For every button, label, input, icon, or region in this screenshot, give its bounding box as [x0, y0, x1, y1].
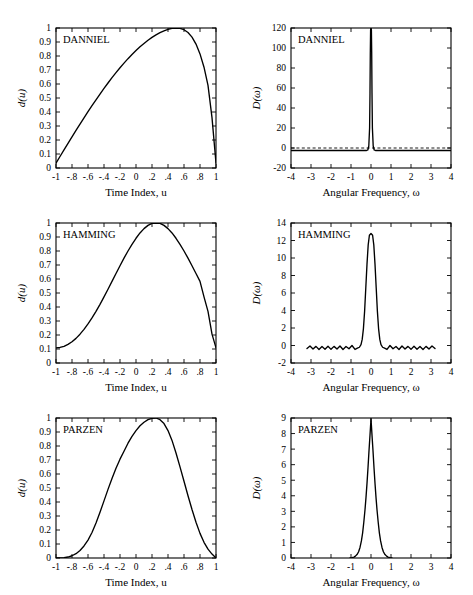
- plot-parzen-window: -1-.8-.6-.4-.20.2.4.6.8100.10.20.30.40.5…: [10, 406, 228, 594]
- y-tick-label: 10: [277, 253, 287, 263]
- x-tick-label: -1: [52, 562, 60, 572]
- x-tick-label: 0: [134, 562, 139, 572]
- y-tick-label: 0.5: [39, 483, 51, 493]
- x-tick-label: 0: [134, 172, 139, 182]
- panel-danniel-window: -1-.8-.6-.4-.20.2.4.6.8100.10.20.30.40.5…: [10, 16, 228, 204]
- x-tick-label: .8: [196, 172, 203, 182]
- x-tick-label: .2: [148, 367, 155, 377]
- y-tick-label: 0.8: [39, 246, 51, 256]
- x-axis-title: Angular Frequency, ω: [322, 186, 419, 198]
- y-tick-label: 80: [277, 63, 287, 73]
- x-tick-label: -.6: [83, 562, 94, 572]
- x-tick-label: -.4: [99, 172, 110, 182]
- y-tick-label: 12: [277, 236, 287, 246]
- panel-title: PARZEN: [298, 424, 338, 435]
- x-tick-label: 4: [449, 562, 454, 572]
- y-tick-label: 8: [281, 429, 286, 439]
- y-tick-label: 1: [281, 538, 286, 548]
- y-tick-label: 0.3: [39, 121, 51, 131]
- y-axis-title: d(u): [15, 284, 28, 303]
- y-tick-label: 0.6: [39, 79, 51, 89]
- x-tick-label: 3: [429, 172, 434, 182]
- x-tick-label: -.6: [83, 367, 94, 377]
- y-tick-label: 5: [281, 476, 286, 486]
- y-tick-label: 0.8: [39, 51, 51, 61]
- plot-frame: [291, 223, 451, 363]
- y-tick-label: 0.5: [39, 288, 51, 298]
- x-tick-label: -.2: [115, 172, 126, 182]
- x-tick-label: 2: [409, 562, 414, 572]
- panel-parzen-window: -1-.8-.6-.4-.20.2.4.6.8100.10.20.30.40.5…: [10, 406, 228, 594]
- x-tick-label: .4: [164, 367, 171, 377]
- y-tick-label: 0: [281, 143, 286, 153]
- panel-title: HAMMING: [298, 229, 351, 240]
- data-curve: [291, 28, 451, 151]
- x-tick-label: -1: [52, 172, 60, 182]
- y-tick-label: 0.6: [39, 274, 51, 284]
- plot-frame: [56, 418, 216, 558]
- x-tick-label: 0: [369, 172, 374, 182]
- y-tick-label: 0.1: [39, 539, 51, 549]
- y-tick-label: 0.4: [39, 497, 51, 507]
- x-tick-label: .8: [196, 367, 203, 377]
- data-curve: [350, 419, 392, 558]
- y-tick-label: 0.7: [39, 260, 51, 270]
- x-tick-label: 1: [214, 562, 219, 572]
- y-tick-label: 0: [46, 553, 51, 563]
- y-tick-label: -20: [273, 163, 286, 173]
- x-tick-label: -.2: [115, 367, 126, 377]
- y-axis-title: D(ω): [250, 281, 263, 305]
- y-tick-label: 0.1: [39, 149, 51, 159]
- x-tick-label: -2: [327, 562, 335, 572]
- x-axis-title: Time Index, u: [105, 576, 167, 588]
- x-tick-label: 4: [449, 367, 454, 377]
- y-tick-label: 120: [272, 23, 287, 33]
- y-tick-label: 100: [272, 43, 287, 53]
- y-tick-label: 0.1: [39, 344, 51, 354]
- x-tick-label: -4: [287, 367, 295, 377]
- x-tick-label: -.8: [67, 562, 78, 572]
- y-tick-label: 0: [46, 163, 51, 173]
- x-tick-label: 1: [389, 562, 394, 572]
- x-axis-title: Time Index, u: [105, 186, 167, 198]
- data-curve: [56, 28, 216, 163]
- panel-title: DANNIEL: [63, 34, 110, 45]
- x-tick-label: -.4: [99, 562, 110, 572]
- panel-title: HAMMING: [63, 229, 116, 240]
- y-axis-title: d(u): [15, 479, 28, 498]
- x-tick-label: 0: [369, 562, 374, 572]
- y-tick-label: 0.3: [39, 511, 51, 521]
- x-tick-label: .8: [196, 562, 203, 572]
- y-tick-label: 1: [46, 23, 51, 33]
- panel-title: PARZEN: [63, 424, 103, 435]
- figure-canvas: -1-.8-.6-.4-.20.2.4.6.8100.10.20.30.40.5…: [0, 0, 473, 595]
- x-tick-label: 2: [409, 172, 414, 182]
- x-tick-label: 1: [214, 172, 219, 182]
- x-tick-label: .4: [164, 172, 171, 182]
- y-tick-label: 0.3: [39, 316, 51, 326]
- y-tick-label: -2: [278, 358, 286, 368]
- y-tick-label: 0.8: [39, 441, 51, 451]
- y-tick-label: 2: [281, 323, 286, 333]
- x-tick-label: .6: [180, 172, 187, 182]
- x-tick-label: -.6: [83, 172, 94, 182]
- plot-frame: [56, 28, 216, 168]
- y-tick-label: 2: [281, 522, 286, 532]
- y-tick-label: 3: [281, 507, 286, 517]
- x-tick-label: 2: [409, 367, 414, 377]
- y-tick-label: 20: [277, 123, 287, 133]
- y-tick-label: 6: [281, 288, 286, 298]
- x-tick-label: -2: [327, 367, 335, 377]
- x-tick-label: -1: [52, 367, 60, 377]
- y-axis-title: d(u): [15, 89, 28, 108]
- data-curve: [307, 234, 435, 350]
- plot-frame: [56, 223, 216, 363]
- y-tick-label: 60: [277, 83, 287, 93]
- x-axis-title: Angular Frequency, ω: [322, 381, 419, 393]
- x-tick-label: -1: [347, 172, 355, 182]
- y-tick-label: 0.4: [39, 302, 51, 312]
- x-tick-label: .6: [180, 562, 187, 572]
- panel-danniel-spectrum: -4-3-2-101234-20020406080100120DANNIELAn…: [245, 16, 463, 204]
- y-tick-label: 0: [46, 358, 51, 368]
- panel-hamming-window: -1-.8-.6-.4-.20.2.4.6.8100.10.20.30.40.5…: [10, 211, 228, 399]
